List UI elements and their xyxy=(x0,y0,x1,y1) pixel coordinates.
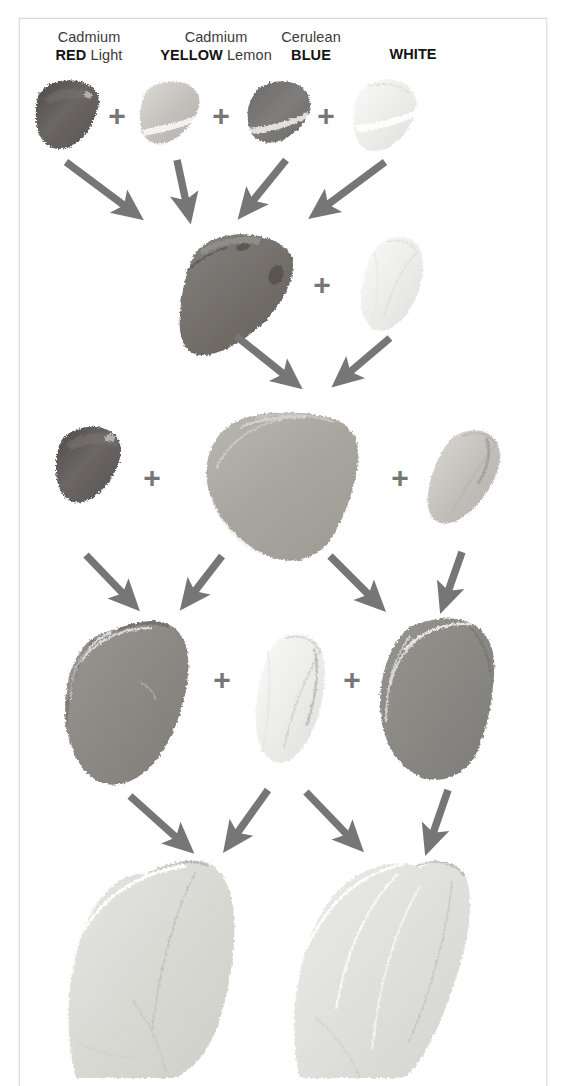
label-line-2: RED Light xyxy=(28,46,150,64)
swatch-r1-yellow xyxy=(140,82,200,144)
plus-sign: + xyxy=(212,99,230,132)
arrow-mix-to-midtone xyxy=(236,336,296,384)
arrow-white-to-midtone xyxy=(338,338,390,382)
label-line-2: WHITE xyxy=(358,45,468,63)
label-line-1: Cerulean xyxy=(255,28,367,46)
swatch-r4-right xyxy=(380,619,494,780)
swatch-r5-right xyxy=(294,862,470,1078)
plus-sign: + xyxy=(343,663,361,696)
swatch-r2-white xyxy=(361,237,423,331)
arrow-red-to-mix xyxy=(66,162,137,215)
page-root: + + + xyxy=(0,0,566,1086)
arrow-midtone-to-warm xyxy=(185,556,222,604)
plus-sign: + xyxy=(317,99,335,132)
arrow-white-to-tintB xyxy=(306,792,358,846)
label-cadmium-red-light: Cadmium RED Light xyxy=(28,28,150,65)
label-white: WHITE xyxy=(358,45,468,63)
swatch-r3-yellow xyxy=(428,430,500,523)
swatch-r1-blue xyxy=(248,81,311,143)
swatch-r1-red xyxy=(36,80,99,149)
plus-sign: + xyxy=(108,99,126,132)
arrow-red-to-warm xyxy=(86,555,134,605)
swatch-r5-left xyxy=(69,860,235,1078)
arrow-cool-to-tintB xyxy=(428,790,448,848)
swatch-r1-white xyxy=(354,79,417,151)
label-line-1: Cadmium xyxy=(28,28,150,46)
plus-sign: + xyxy=(313,268,331,301)
arrow-white-to-mix xyxy=(315,162,385,214)
swatch-r4-left xyxy=(65,621,188,785)
arrow-warm-to-tintA xyxy=(130,796,188,848)
plus-sign: + xyxy=(391,461,409,494)
swatch-r3-mix xyxy=(206,413,358,561)
mixing-chart-canvas: + + + xyxy=(0,0,566,1086)
arrow-white-to-tintA xyxy=(228,790,268,846)
swatch-r3-red xyxy=(56,427,121,503)
plus-sign: + xyxy=(143,461,161,494)
swatch-r4-white xyxy=(256,634,325,763)
arrow-yellow-to-cool xyxy=(443,552,462,606)
arrow-midtone-to-cool xyxy=(330,556,380,606)
plus-sign: + xyxy=(213,663,231,696)
arrow-blue-to-mix xyxy=(243,160,286,213)
arrow-yellow-to-mix xyxy=(177,160,189,216)
label-line-2: BLUE xyxy=(255,46,367,64)
label-cerulean-blue: Cerulean BLUE xyxy=(255,28,367,65)
